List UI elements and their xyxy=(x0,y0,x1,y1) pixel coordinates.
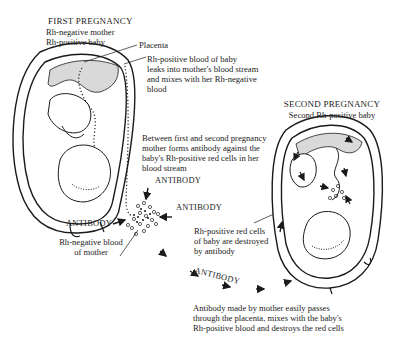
antibody-dots xyxy=(133,208,151,223)
destroyed-label-line3: by antibody xyxy=(194,246,235,256)
leak-label-line3: and mixes with her Rh-negative xyxy=(147,74,257,84)
first-pregnancy-subtitle-mother: Rh-negative mother xyxy=(46,27,115,37)
antibody-label-top: ANTIBODY xyxy=(155,176,201,186)
first-pregnancy-title: FIRST PREGNANCY xyxy=(48,16,133,26)
second-uterus xyxy=(272,116,382,294)
leak-label-line4: blood xyxy=(147,84,167,94)
passes-label-line1: Antibody made by mother easily passes xyxy=(193,303,330,313)
second-pregnancy-subtitle: Second Rh-positive baby xyxy=(272,110,392,120)
first-pregnancy-subtitle-baby: Rh-positive baby xyxy=(46,37,105,47)
antibody-cell-cluster xyxy=(126,201,159,235)
antibody-label-right: ANTIBODY xyxy=(176,203,222,213)
path-arrow-5 xyxy=(284,281,291,283)
between-label-line2: mother forms antibody against the xyxy=(142,143,260,153)
diagram-artwork xyxy=(0,0,396,345)
placenta-label: Placenta xyxy=(139,40,168,50)
destroyed-label-line1: Rh-positive red cells xyxy=(194,226,265,236)
between-label-line4: blood stream xyxy=(142,163,187,173)
destroyed-label-line2: of baby are destroyed xyxy=(194,236,268,246)
rh-negative-label-line1: Rh-negative blood xyxy=(56,237,126,247)
passes-label-line2: through the placenta, mixes with the bab… xyxy=(193,313,342,323)
antibody-arrow-down xyxy=(146,188,148,199)
between-label-line1: Between first and second pregnancy xyxy=(142,133,267,143)
leak-label-line2: leaks into mother's blood stream xyxy=(147,64,258,74)
antibody-arrow-right xyxy=(113,220,125,224)
antibody-label-left: ANTIBODY xyxy=(66,219,112,229)
path-arrow-1 xyxy=(160,251,166,256)
first-uterus xyxy=(13,43,135,237)
second-pregnancy-title: SECOND PREGNANCY xyxy=(272,99,392,109)
passes-label-line3: Rh-positive blood and destroys the red c… xyxy=(193,323,344,333)
leak-label-line1: Rh-positive blood of baby xyxy=(147,54,237,64)
rh-negative-label-line2: of mother xyxy=(56,247,126,257)
path-arrow-3 xyxy=(222,285,230,287)
between-label-line3: baby's Rh-positive red cells in her xyxy=(142,153,259,163)
